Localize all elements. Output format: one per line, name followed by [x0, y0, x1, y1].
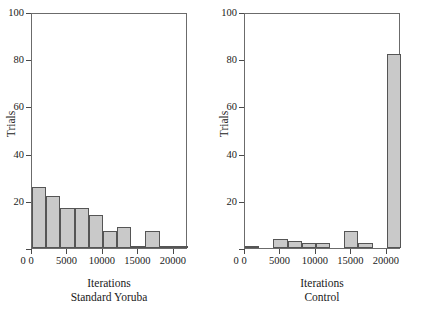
histogram-bar	[117, 227, 131, 248]
y-tick-right	[239, 60, 244, 61]
x-tick-left	[66, 249, 67, 254]
histogram-bar	[46, 196, 60, 248]
plot-area-right	[244, 13, 400, 249]
histogram-bar	[89, 215, 103, 248]
y-tick-right	[239, 107, 244, 108]
histogram-bar	[344, 231, 358, 248]
x-tick-label-left: 15000	[124, 256, 150, 267]
panel-standard-yoruba: Trials 20406080100 050001000015000200000…	[0, 0, 213, 310]
x-tick-right	[350, 249, 351, 254]
histogram-bar	[387, 54, 401, 248]
y-tick-left	[26, 60, 31, 61]
histogram-bar	[316, 243, 330, 248]
histogram-bar	[160, 246, 174, 248]
x-tick-right	[244, 249, 245, 254]
x-tick-label-right: 15000	[337, 256, 363, 267]
x-tick-right	[386, 249, 387, 254]
histogram-bar	[174, 246, 188, 248]
y-tick-right	[239, 202, 244, 203]
y-tick-label-left: 20	[0, 197, 24, 208]
x-tick-left	[173, 249, 174, 254]
x-origin-label-right: 0	[233, 256, 238, 267]
histogram-bar	[245, 246, 259, 248]
x-tick-left	[31, 249, 32, 254]
panel-subtitle-left: Standard Yoruba	[31, 290, 187, 304]
x-tick-right	[315, 249, 316, 254]
y-tick-left	[26, 155, 31, 156]
y-tick-label-right: 80	[213, 55, 237, 66]
x-tick-left	[102, 249, 103, 254]
histogram-bar	[131, 246, 145, 248]
x-tick-label-left: 5000	[56, 256, 77, 267]
x-tick-right	[279, 249, 280, 254]
histogram-figure: Trials 20406080100 050001000015000200000…	[0, 0, 426, 310]
histogram-bar	[60, 208, 74, 248]
histogram-bar	[302, 243, 316, 248]
y-tick-left	[26, 107, 31, 108]
y-tick-label-left: 80	[0, 55, 24, 66]
histogram-bar	[75, 208, 89, 248]
y-tick-label-right: 40	[213, 150, 237, 161]
y-tick-label-left: 100	[0, 8, 24, 19]
y-tick-left	[26, 202, 31, 203]
histogram-bar	[103, 231, 117, 248]
y-tick-right	[239, 155, 244, 156]
x-tick-label-left: 0	[28, 256, 33, 267]
y-tick-left	[26, 13, 31, 14]
bars-right	[245, 14, 399, 248]
panel-control: Trials 20406080100 050001000015000200000…	[213, 0, 426, 310]
x-tick-label-right: 10000	[302, 256, 328, 267]
x-tick-label-right: 0	[241, 256, 246, 267]
x-tick-left	[137, 249, 138, 254]
histogram-bar	[273, 239, 287, 248]
x-tick-label-left: 10000	[89, 256, 115, 267]
y-tick-label-right: 20	[213, 197, 237, 208]
x-origin-label-left: 0	[20, 256, 25, 267]
y-tick-label-left: 40	[0, 150, 24, 161]
x-tick-label-right: 5000	[269, 256, 290, 267]
plot-area-left	[31, 13, 187, 249]
y-tick-label-left: 60	[0, 102, 24, 113]
histogram-bar	[358, 243, 372, 248]
y-tick-right	[239, 13, 244, 14]
x-axis-title-left: Iterations	[31, 276, 187, 290]
histogram-bar	[32, 187, 46, 248]
histogram-bar	[145, 231, 159, 248]
histogram-bar	[288, 241, 302, 248]
x-tick-label-left: 20000	[160, 256, 186, 267]
bars-left	[32, 14, 186, 248]
y-tick-label-right: 100	[213, 8, 237, 19]
y-tick-label-right: 60	[213, 102, 237, 113]
panel-subtitle-right: Control	[244, 290, 400, 304]
x-axis-title-right: Iterations	[244, 276, 400, 290]
x-tick-label-right: 20000	[373, 256, 399, 267]
